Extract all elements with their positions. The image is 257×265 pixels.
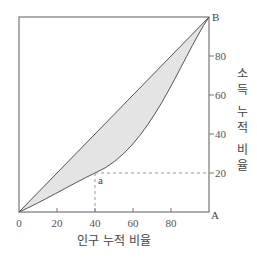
- corner-label-a: A: [211, 209, 219, 221]
- svg-text:누: 누: [237, 105, 248, 119]
- x-tick-20: 20: [52, 217, 64, 229]
- svg-text:득: 득: [237, 83, 248, 97]
- x-tick-60: 60: [128, 217, 140, 229]
- svg-text:소: 소: [237, 67, 248, 81]
- y-tick-40: 40: [215, 128, 227, 140]
- equality-line: [19, 17, 209, 212]
- svg-text:비: 비: [237, 143, 248, 157]
- x-tick-40: 40: [90, 217, 102, 229]
- svg-text:적: 적: [237, 121, 248, 135]
- x-tick-80: 80: [166, 217, 178, 229]
- y-tick-60: 60: [215, 89, 227, 101]
- y-tick-20: 20: [215, 167, 227, 179]
- corner-label-b: B: [212, 11, 219, 23]
- x-axis-title: 인구 누적 비율: [77, 234, 151, 248]
- x-tick-0: 0: [16, 217, 22, 229]
- point-a-label: a: [98, 174, 103, 186]
- svg-text:율: 율: [237, 159, 248, 173]
- y-axis-title: 소 득 누 적 비 율: [237, 67, 248, 173]
- lorenz-chart: 0 20 40 60 80 20 40 60 80 B A a 인구 누적 비율…: [0, 0, 257, 265]
- y-ticks: [209, 56, 214, 173]
- x-ticks: [57, 208, 171, 212]
- y-tick-80: 80: [215, 50, 227, 62]
